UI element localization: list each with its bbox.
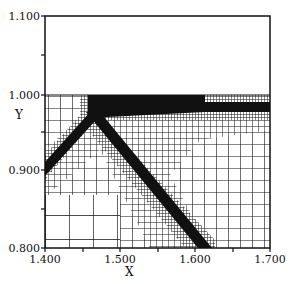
- x-axis-title: X: [125, 265, 134, 279]
- y-tick-label: 0.900: [0, 165, 40, 176]
- x-tick-label: 1.600: [175, 254, 215, 265]
- x-tick-label: 1.400: [25, 254, 65, 265]
- x-tick-label: 1.500: [100, 254, 140, 265]
- y-axis-title: Y: [15, 108, 23, 122]
- mesh-region: [45, 95, 270, 248]
- y-tick-label: 1.000: [0, 90, 40, 101]
- mesh-plot: [0, 0, 294, 284]
- x-tick-label: 1.700: [250, 254, 290, 265]
- y-tick-label: 1.100: [0, 11, 40, 22]
